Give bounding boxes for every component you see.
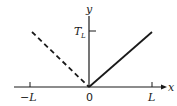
y-axis-label: y <box>85 3 93 16</box>
x-axis-label: x <box>168 81 175 94</box>
x-axis-arrow-icon <box>161 85 167 90</box>
diagram-canvas: y x T L −L 0 L <box>0 0 177 106</box>
tick-label-neg-L: −L <box>20 91 37 104</box>
dashed-line <box>32 32 89 87</box>
solid-line <box>89 32 152 87</box>
tick-label-pos-L: L <box>147 91 155 104</box>
tick-label-origin: 0 <box>86 91 93 104</box>
tick-label-T-subscript: L <box>80 32 86 40</box>
